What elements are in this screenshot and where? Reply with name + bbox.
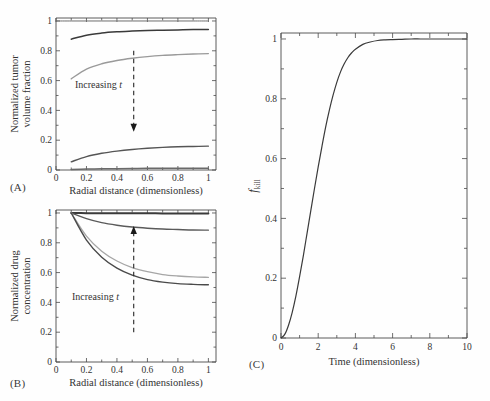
- x-tick-label: 0.4: [111, 173, 123, 183]
- y-tick-label: 0.6: [40, 76, 52, 86]
- panel-a-axes: [56, 18, 216, 170]
- panel-a-svg: 00.20.40.60.8100.20.40.60.81 Increasing …: [0, 0, 245, 200]
- panel-b-tick-labels: 00.20.40.60.8100.20.40.60.81: [40, 208, 211, 375]
- curve-t2: [71, 29, 208, 39]
- x-tick-label: 0.6: [141, 365, 153, 375]
- curve-t2: [71, 213, 208, 230]
- x-tick-label: 2: [316, 342, 321, 352]
- curve-t4: [71, 146, 208, 162]
- x-tick-label: 0.8: [172, 173, 184, 183]
- x-tick-label: 0.2: [81, 365, 93, 375]
- y-tick-label: 0.8: [265, 94, 277, 104]
- x-tick-label: 0: [54, 173, 59, 183]
- y-tick-label: 0: [47, 357, 52, 367]
- panel-a-ylabel-line1: Normalized tumor: [9, 55, 20, 133]
- figure-container: 00.20.40.60.8100.20.40.60.81 Increasing …: [0, 0, 490, 401]
- x-tick-label: 10: [462, 342, 472, 352]
- y-tick-label: 0.2: [40, 135, 52, 145]
- panel-b-xlabel: Radial distance (dimensionless): [69, 377, 203, 389]
- panel-a-label: (A): [10, 181, 26, 193]
- panel-c-ticks: [281, 33, 467, 338]
- panel-c-curves: [281, 39, 467, 338]
- panel-b-drug-concentration: 00.20.40.60.8100.20.40.60.81 Increasing …: [0, 196, 245, 401]
- panel-c-axes: [281, 33, 467, 338]
- x-tick-label: 0.6: [141, 173, 153, 183]
- x-tick-label: 0.2: [81, 173, 93, 183]
- y-tick-label: 1: [47, 16, 52, 26]
- panel-a-curves: [56, 21, 208, 169]
- x-tick-label: 4: [353, 342, 358, 352]
- panel-a-annotation: Increasing t: [75, 79, 122, 90]
- x-tick-label: 1: [206, 173, 211, 183]
- curve-f_kill: [281, 39, 467, 338]
- curve-t5: [71, 168, 208, 169]
- panel-b-curves: [71, 213, 208, 285]
- panel-b-ylabel-line2: concentration: [21, 257, 32, 315]
- y-tick-label: 0: [47, 165, 52, 175]
- curve-t3: [71, 54, 208, 79]
- y-tick-label: 1: [272, 34, 277, 44]
- curve-t4: [71, 213, 208, 285]
- panel-c-ylabel: fkill: [246, 179, 262, 192]
- y-tick-label: 1: [47, 208, 52, 218]
- panel-c-xlabel: Time (dimensionless): [329, 356, 420, 368]
- panel-a-tick-labels: 00.20.40.60.8100.20.40.60.81: [40, 16, 211, 183]
- panel-a-ylabel-line2: volume fraction: [21, 60, 32, 128]
- y-tick-label: 0.2: [265, 273, 277, 283]
- y-tick-label: 0.2: [40, 327, 52, 337]
- y-tick-label: 0.4: [265, 214, 277, 224]
- panel-b-svg: 00.20.40.60.8100.20.40.60.81 Increasing …: [0, 196, 245, 401]
- panel-a-increasing-arrow: [131, 51, 137, 132]
- x-tick-label: 0.8: [172, 365, 184, 375]
- y-tick-label: 0.8: [40, 46, 52, 56]
- panel-a-tumor-volume-fraction: 00.20.40.60.8100.20.40.60.81 Increasing …: [0, 0, 245, 200]
- x-tick-label: 0: [279, 342, 284, 352]
- y-tick-label: 0: [272, 333, 277, 343]
- panel-c-fkill-vs-time: 024681000.20.40.60.81 Time (dimensionles…: [245, 0, 490, 401]
- panel-c-label: (C): [249, 358, 264, 370]
- panel-b-ylabel-line1: Normalized drug: [9, 250, 20, 322]
- x-tick-label: 1: [206, 365, 211, 375]
- panel-b-annotation: Increasing t: [72, 291, 119, 302]
- x-tick-label: 8: [427, 342, 432, 352]
- y-tick-label: 0.6: [265, 154, 277, 164]
- y-tick-label: 0.4: [40, 106, 52, 116]
- y-tick-label: 0.6: [40, 268, 52, 278]
- curve-t3: [71, 213, 208, 277]
- panel-c-svg: 024681000.20.40.60.81 Time (dimensionles…: [245, 0, 490, 401]
- panel-a-ticks: [56, 18, 216, 170]
- y-tick-label: 0.4: [40, 298, 52, 308]
- y-tick-label: 0.8: [40, 238, 52, 248]
- panel-b-increasing-arrow: [131, 226, 137, 332]
- x-tick-label: 0.4: [111, 365, 123, 375]
- panel-c-tick-labels: 024681000.20.40.60.81: [265, 34, 472, 352]
- x-tick-label: 0: [54, 365, 59, 375]
- panel-b-label: (B): [10, 377, 25, 389]
- x-tick-label: 6: [390, 342, 395, 352]
